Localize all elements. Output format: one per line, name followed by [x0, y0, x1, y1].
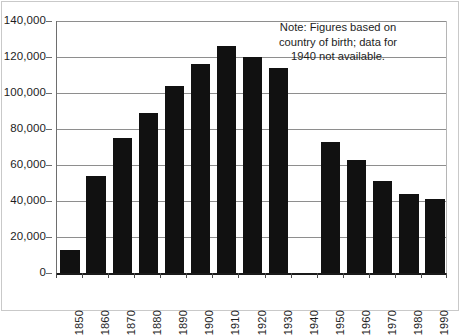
x-tick-label-1850: 1850	[74, 310, 85, 335]
bar-1950	[321, 142, 340, 273]
y-tick-mark-140000	[46, 21, 52, 22]
y-tick-mark-120000	[46, 57, 52, 58]
x-tick-label-1920: 1920	[257, 310, 268, 335]
bar-1850	[60, 250, 79, 273]
x-tick-label-1980: 1980	[413, 310, 424, 335]
bar-1990	[425, 199, 444, 273]
note-line-1: Note: Figures based on	[243, 20, 433, 35]
x-tick-label-1970: 1970	[387, 310, 398, 335]
bar-1960	[347, 160, 366, 273]
x-tick-label-1860: 1860	[100, 310, 111, 335]
y-tick-label-100000: 100,000	[0, 87, 46, 99]
y-tick-mark-100000	[46, 93, 52, 94]
x-tick-label-1880: 1880	[152, 310, 163, 335]
bar-1910	[217, 46, 236, 273]
x-tick-label-1870: 1870	[126, 310, 137, 335]
bar-1860	[86, 176, 105, 273]
y-tick-label-0: 0	[0, 267, 46, 279]
note-line-2: country of birth; data for	[243, 35, 433, 50]
x-tick-label-1910: 1910	[230, 310, 241, 335]
bar-1890	[165, 86, 184, 273]
y-axis-labels: 020,00040,00060,00080,000100,000120,0001…	[0, 21, 52, 273]
y-tick-mark-40000	[46, 201, 52, 202]
y-tick-label-60000: 60,000	[0, 159, 46, 171]
y-tick-mark-60000	[46, 165, 52, 166]
bar-1870	[113, 138, 132, 273]
x-tick-label-1960: 1960	[361, 310, 372, 335]
x-axis-labels: 1850186018701880189019001910192019301940…	[56, 276, 447, 313]
y-tick-label-80000: 80,000	[0, 123, 46, 135]
bar-1970	[373, 181, 392, 273]
y-tick-label-140000: 140,000	[0, 15, 46, 27]
bar-1920	[243, 57, 262, 273]
y-tick-label-20000: 20,000	[0, 231, 46, 243]
x-tick-label-1890: 1890	[178, 310, 189, 335]
bar-1900	[191, 64, 210, 273]
chart-note: Note: Figures based on country of birth;…	[243, 20, 433, 64]
x-tick-label-1940: 1940	[309, 310, 320, 335]
x-tick-label-1990: 1990	[439, 310, 450, 335]
bar-1930	[269, 68, 288, 273]
bar-1980	[399, 194, 418, 273]
y-tick-label-120000: 120,000	[0, 51, 46, 63]
y-tick-label-40000: 40,000	[0, 195, 46, 207]
x-tick-label-1900: 1900	[204, 310, 215, 335]
x-tick-label-1950: 1950	[335, 310, 346, 335]
y-tick-mark-0	[46, 273, 52, 274]
note-line-3: 1940 not available.	[243, 49, 433, 64]
bar-1880	[139, 113, 158, 273]
y-tick-mark-20000	[46, 237, 52, 238]
x-tick-label-1930: 1930	[283, 310, 294, 335]
y-tick-mark-80000	[46, 129, 52, 130]
